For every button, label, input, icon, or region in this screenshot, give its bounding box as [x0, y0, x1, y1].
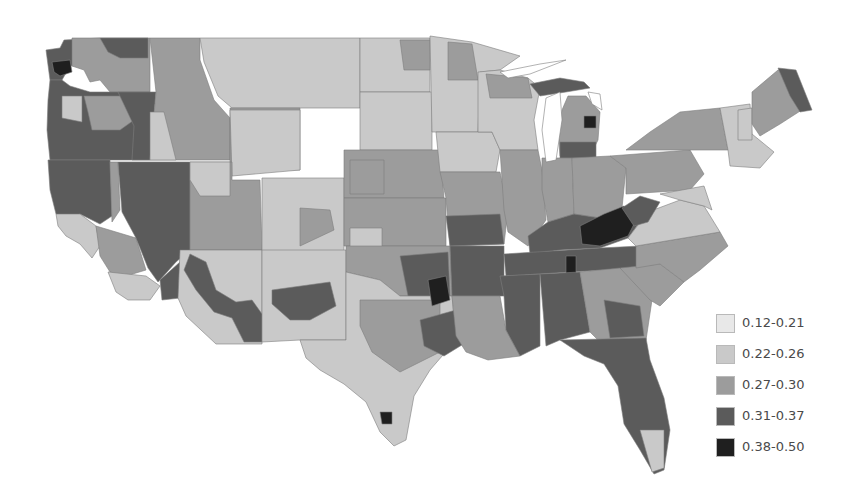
legend-label-class-4: 0.31-0.37: [742, 408, 805, 423]
legend-item-class-5: 0.38-0.50: [716, 438, 846, 458]
legend-label-class-1: 0.12-0.21: [742, 315, 805, 330]
legend-swatch-class-2: [716, 345, 735, 364]
region-wyoming: [230, 110, 300, 176]
legend-label-class-3: 0.27-0.30: [742, 377, 805, 392]
legend-swatch-class-4: [716, 407, 735, 426]
region-south-dakota: [360, 92, 432, 150]
legend-swatch-class-3: [716, 376, 735, 395]
legend-item-class-3: 0.27-0.30: [716, 376, 846, 396]
legend-swatch-class-1: [716, 314, 735, 333]
region-missouri-dark: [446, 214, 504, 246]
region-texas-border-dark: [380, 412, 392, 424]
legend-item-class-1: 0.12-0.21: [716, 314, 846, 334]
region-arkansas-dark: [450, 246, 504, 296]
map-regions: [46, 36, 812, 474]
region-michigan-dark-band: [560, 142, 596, 158]
region-oregon-light: [62, 96, 82, 122]
region-indiana: [542, 158, 574, 222]
region-georgia-dark: [604, 300, 644, 338]
region-iowa: [436, 132, 500, 172]
legend-item-class-2: 0.22-0.26: [716, 345, 846, 365]
region-montana-west: [200, 38, 360, 108]
region-michigan-black: [584, 116, 596, 128]
region-kansas-light: [350, 228, 382, 248]
region-vermont-nh: [738, 108, 752, 140]
legend-label-class-2: 0.22-0.26: [742, 346, 805, 361]
lake-michigan: [542, 92, 562, 162]
region-nebraska-dark: [350, 160, 384, 194]
legend-swatch-class-5: [716, 438, 735, 457]
region-dakota-mid: [400, 40, 430, 70]
legend-item-class-4: 0.31-0.37: [716, 407, 846, 427]
legend-label-class-5: 0.38-0.50: [742, 439, 805, 454]
us-choropleth-map: [0, 0, 852, 503]
region-california-south: [108, 272, 160, 300]
region-new-york: [626, 108, 728, 150]
